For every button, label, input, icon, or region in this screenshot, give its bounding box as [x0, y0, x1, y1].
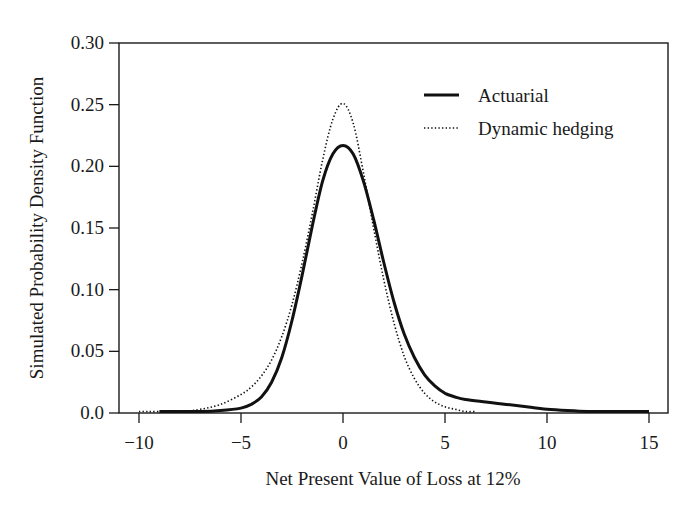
plot-frame	[119, 43, 668, 413]
series-lines	[139, 103, 649, 411]
y-tick-label: 0.0	[80, 402, 104, 423]
y-tick-label: 0.25	[71, 94, 104, 115]
y-tick-label: 0.10	[71, 279, 104, 300]
y-tick-label: 0.05	[71, 340, 104, 361]
y-axis-title: Simulated Probability Density Function	[26, 76, 47, 379]
legend: ActuarialDynamic hedging	[424, 85, 614, 139]
actuarial-line	[159, 145, 649, 411]
x-axis: −10−5051015	[124, 413, 658, 453]
plot-border	[119, 43, 668, 413]
x-axis-title: Net Present Value of Loss at 12%	[265, 468, 520, 489]
x-tick-label: −10	[124, 432, 154, 453]
y-tick-label: 0.20	[71, 155, 104, 176]
density-chart: 0.00.050.100.150.200.250.30 −10−5051015 …	[0, 0, 690, 505]
y-tick-label: 0.15	[71, 217, 104, 238]
x-tick-label: −5	[231, 432, 251, 453]
legend-label: Dynamic hedging	[478, 118, 614, 139]
x-tick-label: 5	[440, 432, 450, 453]
x-tick-label: 0	[338, 432, 348, 453]
x-tick-label: 15	[640, 432, 659, 453]
legend-label: Actuarial	[478, 85, 549, 106]
y-tick-label: 0.30	[71, 32, 104, 53]
x-tick-label: 10	[538, 432, 557, 453]
y-axis: 0.00.050.100.150.200.250.30	[71, 32, 119, 423]
